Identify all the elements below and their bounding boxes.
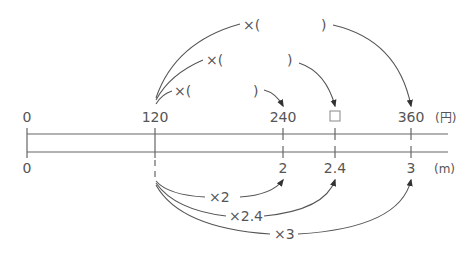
bottom-arc-1-right <box>240 180 283 197</box>
bottom-arc-1-label: ×2 <box>209 189 230 205</box>
top-arc-3-right <box>333 25 411 106</box>
yen-unit-label: (円) <box>435 111 456 125</box>
top-label-120: 120 <box>142 109 169 125</box>
bottom-label-0: 0 <box>23 160 32 176</box>
bottom-label-2-4: 2.4 <box>324 160 346 176</box>
top-arc-3-label-prefix: ×( <box>243 17 260 33</box>
top-arc-2-label-suffix: ) <box>287 52 292 68</box>
bottom-arc-3-label: ×3 <box>274 226 295 242</box>
bottom-label-2: 2 <box>279 160 288 176</box>
bottom-arc-1-left <box>156 181 205 197</box>
top-arc-3-label-suffix: ) <box>321 17 326 33</box>
top-label-360: 360 <box>398 109 425 125</box>
bottom-arc-2-right <box>264 180 335 216</box>
top-arc-1-label-suffix: ) <box>253 83 258 99</box>
bottom-arc-2-label: ×2.4 <box>229 208 263 224</box>
top-label-240: 240 <box>270 109 297 125</box>
meter-unit-label: (m) <box>434 162 455 176</box>
top-arc-1-label-prefix: ×( <box>174 83 191 99</box>
top-arc-2-label-prefix: ×( <box>206 52 223 68</box>
unknown-box <box>330 111 340 121</box>
double-number-line-diagram: 0 120 240 360 (円) 0 2 2.4 3 (m) ×( ) ×( … <box>0 0 476 255</box>
bottom-arc-3-right <box>298 180 411 234</box>
top-arc-2-right <box>299 63 335 106</box>
bottom-label-3: 3 <box>407 160 416 176</box>
top-arc-3-left <box>156 24 240 98</box>
top-arc-1-right <box>264 90 283 106</box>
top-label-0: 0 <box>23 109 32 125</box>
